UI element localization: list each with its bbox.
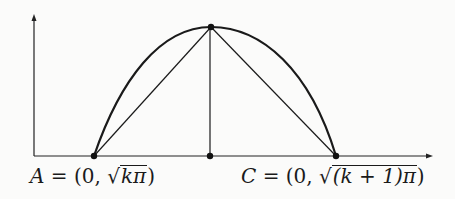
chord-apex-c xyxy=(211,27,336,156)
label-a-var: A xyxy=(30,164,44,188)
label-c-radicand: (k + 1)π xyxy=(332,165,417,187)
point-c xyxy=(333,153,339,159)
sqrt-icon: √ xyxy=(319,164,332,188)
chord-a-apex xyxy=(94,27,211,156)
label-a-close: ) xyxy=(147,164,155,188)
x-axis-arrow-icon xyxy=(426,154,433,159)
label-a-sqrt: √kπ xyxy=(107,164,147,188)
label-c-eq: = (0, xyxy=(256,164,319,188)
label-c-var: C xyxy=(241,164,256,188)
label-c: C = (0, √(k + 1)π) xyxy=(241,164,425,188)
parabola-arc xyxy=(94,27,336,156)
point-foot xyxy=(207,153,213,159)
sqrt-icon: √ xyxy=(107,164,120,188)
y-axis-arrow-icon xyxy=(32,14,37,21)
diagram-canvas: A = (0, √kπ) C = (0, √(k + 1)π) xyxy=(0,0,455,199)
label-c-sqrt: √(k + 1)π xyxy=(319,164,417,188)
label-a-eq: = (0, xyxy=(44,164,107,188)
point-a xyxy=(91,153,97,159)
label-a-radicand: kπ xyxy=(120,165,147,187)
label-c-close: ) xyxy=(417,164,425,188)
point-apex xyxy=(208,24,214,30)
label-a: A = (0, √kπ) xyxy=(30,164,155,188)
